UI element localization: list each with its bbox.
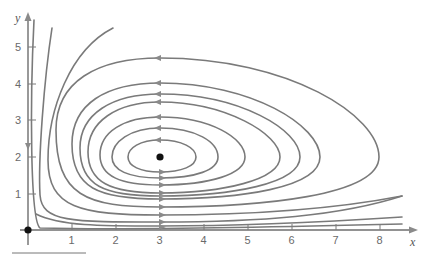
flow-arrow-right-icon: [159, 190, 166, 196]
flow-arrow-left-icon: [154, 55, 161, 61]
flow-arrow-left-icon: [154, 99, 161, 105]
flow-arrow-left-icon: [154, 114, 161, 120]
flow-arrow-right-icon: [159, 204, 166, 210]
x-tick-label: 4: [201, 234, 207, 246]
x-axis-arrow-icon: [409, 227, 418, 234]
x-tick-label: 1: [69, 234, 75, 246]
open-trajectory-3: [36, 214, 402, 226]
y-tick-label: 2: [15, 151, 21, 163]
flow-arrow-right-icon: [159, 182, 166, 188]
x-tick-label: 6: [289, 234, 295, 246]
flow-arrow-right-icon: [159, 175, 166, 181]
x-tick-label: 3: [157, 234, 163, 246]
flow-arrows: [154, 55, 166, 230]
x-tick-label: 2: [113, 234, 119, 246]
orbit-7: [56, 58, 379, 207]
flow-arrow-left-icon: [154, 125, 161, 131]
flow-arrow-right-icon: [159, 219, 166, 225]
orbit-6: [72, 83, 320, 199]
x-tick-label: 5: [245, 234, 251, 246]
y-tick-label: 5: [15, 41, 21, 53]
y-tick-label: 1: [15, 188, 21, 200]
x-tick-label: 7: [333, 234, 339, 246]
flow-arrow-right-icon: [159, 169, 166, 175]
y-axis-flow-arrow-icon: [25, 143, 31, 150]
flow-arrow-left-icon: [154, 80, 161, 86]
flow-arrow-right-icon: [159, 212, 166, 218]
axes: x y 1 2 3 4 5 6 7 8 1 2 3 4 5: [14, 11, 418, 249]
y-tick-label: 3: [15, 114, 21, 126]
phase-portrait: x y 1 2 3 4 5 6 7 8 1 2 3 4 5: [0, 0, 426, 255]
x-axis-label: x: [409, 235, 416, 249]
y-tick-label: 4: [15, 78, 21, 90]
orbit-5: [80, 94, 300, 196]
equilibrium-point-origin: [24, 226, 31, 233]
x-tick-label: 8: [377, 234, 383, 246]
flow-arrow-left-icon: [154, 91, 161, 97]
orbit-3: [100, 117, 245, 185]
closed-orbits: [56, 58, 379, 207]
y-axis-arrow-icon: [25, 12, 32, 21]
equilibrium-point-3-2: [156, 153, 163, 160]
flow-arrow-left-icon: [154, 137, 161, 143]
y-axis-label: y: [14, 11, 21, 25]
flow-arrow-right-icon: [159, 196, 166, 202]
